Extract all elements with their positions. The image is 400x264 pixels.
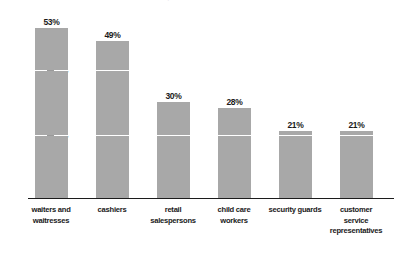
bar-retail-salespersons: [157, 102, 190, 198]
gridline-20: [28, 135, 394, 136]
gridline-40: [28, 70, 394, 71]
category-label-line: waitresses: [15, 216, 87, 227]
bar-chart: percent of workers 40% 20% 53% 49% 30% 2…: [0, 0, 400, 264]
category-label-line: workers: [198, 216, 270, 227]
bar-security-guards: [279, 131, 312, 198]
category-label-line: service: [320, 216, 392, 227]
plot-area: 40% 20%: [0, 0, 400, 199]
category-label-line: representatives: [320, 226, 392, 237]
category-label-line: customer: [320, 205, 392, 216]
bar-cashiers: [96, 41, 129, 198]
ytick-mark-40: [47, 70, 54, 71]
x-axis-line: [28, 198, 394, 199]
ytick-mark-20: [47, 135, 54, 136]
bar-value-waiters-and-waitresses: 53%: [35, 17, 68, 27]
category-label-customer-service-representatives: customer service representatives: [320, 205, 392, 237]
bar-value-customer-service-representatives: 21%: [340, 120, 373, 130]
bar-customer-service-representatives: [340, 131, 373, 198]
bar-child-care-workers: [218, 108, 251, 198]
bar-value-child-care-workers: 28%: [218, 97, 251, 107]
bar-value-security-guards: 21%: [279, 120, 312, 130]
bar-waiters-and-waitresses: [35, 28, 68, 198]
bar-value-cashiers: 49%: [96, 30, 129, 40]
bar-value-retail-salespersons: 30%: [157, 91, 190, 101]
